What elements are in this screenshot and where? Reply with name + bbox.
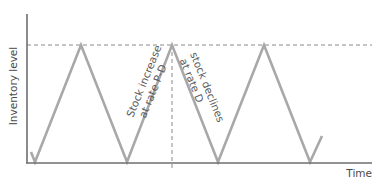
x-axis-label: Time — [345, 167, 372, 179]
inventory-diagram: Inventory level Time Stock increase at r… — [0, 0, 381, 182]
inventory-sawtooth-line — [31, 45, 322, 162]
y-axis-label: Inventory level — [7, 47, 19, 125]
diagram-canvas: Inventory level Time Stock increase at r… — [0, 0, 381, 182]
decline-annotation: stock declines at rate D — [177, 50, 227, 128]
